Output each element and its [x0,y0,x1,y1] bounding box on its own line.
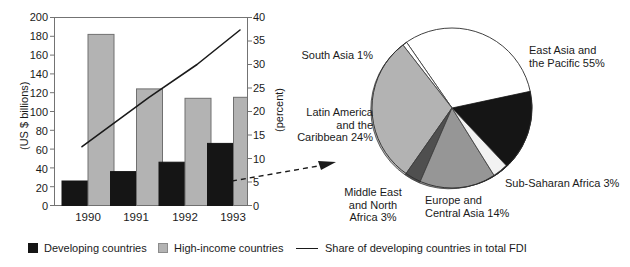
legend-item-developing-countries: Developing countries [28,242,147,254]
legend-line-icon [296,248,318,249]
x-tick-1991: 1991 [114,211,158,223]
pie-label-europe-central-asia: Europe and Central Asia 14% [425,194,509,219]
legend-item-high-income-countries: High-income countries [158,242,283,254]
pie-label-middle-east: Middle East and North Africa 3% [336,186,410,224]
bar-developing-1991 [111,172,137,206]
legend-swatch-dark-icon [28,243,38,253]
pie-label-latin-america: Latin America and the Caribbean 24% [265,106,373,144]
bar-line-chart: (US $ billions) (percent) 200 180 160 14… [0,0,290,232]
callout-arrow [228,155,348,191]
legend-item-share-line: Share of developing countries in total F… [296,242,527,254]
bar-developing-1990 [62,181,88,206]
pie-label-south-asia: South Asia 1% [293,49,373,62]
legend-label-share-line: Share of developing countries in total F… [325,242,527,254]
fdi-figure: (US $ billions) (percent) 200 180 160 14… [0,0,630,267]
plot-area [0,0,290,232]
arrowhead [318,161,336,170]
legend-label-high-income-countries: High-income countries [174,242,283,254]
x-tick-1992: 1992 [163,211,207,223]
bar-developing-1992 [159,162,185,205]
pie-label-sub-saharan: Sub-Saharan Africa 3% [505,177,619,190]
x-tick-1993: 1993 [211,211,255,223]
pie-label-east-asia: East Asia and the Pacific 55% [529,44,605,69]
x-tick-1990: 1990 [66,211,110,223]
legend-label-developing-countries: Developing countries [44,242,147,254]
legend: Developing countries High-income countri… [0,239,630,261]
legend-swatch-gray-icon [158,243,168,253]
